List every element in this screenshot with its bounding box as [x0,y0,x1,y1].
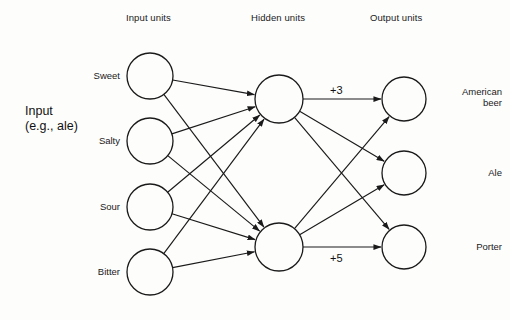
input-label-sour: Sour [45,201,120,212]
output-label-american-beer: American beer [436,86,502,108]
weight-label-hidden1-to-american-beer: +3 [330,84,343,96]
output-unit-2 [382,225,426,269]
edge-input2-hidden0 [168,115,260,192]
input-caption-line1: Input [25,104,78,119]
edge-hidden0-output1 [300,111,385,161]
edge-hidden1-output1 [300,185,385,235]
input-unit-3 [127,249,173,295]
edge-input0-hidden0 [173,80,255,95]
input-unit-circles [127,53,173,295]
input-caption-line2: (e.g., ale) [25,119,78,134]
figure-canvas: Input units Hidden units Output units In… [0,0,510,320]
output-unit-circles [382,77,426,269]
edge-input1-hidden1 [168,156,260,232]
output-unit-0 [382,77,426,121]
input-unit-2 [127,184,173,230]
output-label-american-beer-line2: beer [436,97,502,108]
hidden-unit-0 [255,75,303,123]
input-label-salty: Salty [45,135,120,146]
header-output-units: Output units [370,12,422,23]
weight-label-hidden2-to-porter: +5 [330,252,343,264]
edge-input3-hidden0 [164,119,264,254]
edge-input0-hidden1 [164,94,264,227]
header-hidden-units: Hidden units [251,12,305,23]
output-label-porter: Porter [436,241,502,252]
input-caption: Input (e.g., ale) [25,104,78,134]
input-unit-0 [127,53,173,99]
hidden-unit-1 [255,223,303,271]
output-label-ale: Ale [436,167,502,178]
output-unit-1 [382,151,426,195]
header-input-units: Input units [126,12,171,23]
edge-input3-hidden1 [173,252,255,268]
input-unit-1 [127,118,173,164]
output-label-american-beer-line1: American [436,86,502,97]
input-label-bitter: Bitter [45,266,120,277]
hidden-unit-circles [255,75,303,271]
input-label-sweet: Sweet [45,70,120,81]
edges-hidden-to-output [294,99,389,247]
edges-input-to-hidden [164,80,264,268]
